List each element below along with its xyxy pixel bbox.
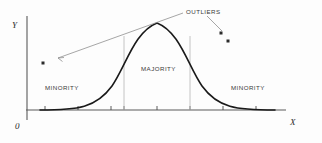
outlier-point-right-lower <box>227 40 230 43</box>
outlier-leader-line-right <box>207 16 222 31</box>
outlier-point-right-upper <box>220 32 223 35</box>
minority-left-label: MINORITY <box>45 85 79 91</box>
outlier-points <box>42 32 230 65</box>
majority-label: MAJORITY <box>141 66 176 72</box>
outliers-label: OUTLIERS <box>186 9 221 15</box>
minority-right-label: MINORITY <box>231 85 265 91</box>
outlier-leader-line-left <box>58 13 183 62</box>
outlier-point-left <box>42 62 45 65</box>
x-axis-label: X <box>290 118 296 127</box>
origin-label: 0 <box>15 122 20 131</box>
y-axis-label: Y <box>12 21 17 30</box>
statistics-bell-curve-figure: OUTLIERS MINORITY MAJORITY MINORITY Y X … <box>0 0 322 143</box>
